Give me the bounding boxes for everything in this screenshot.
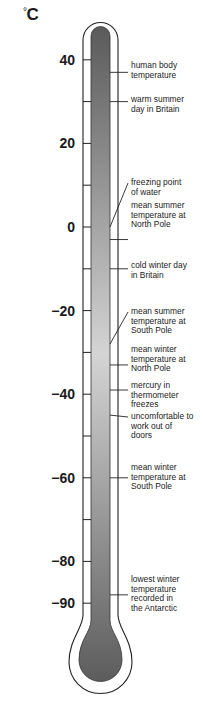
scale-label: −20 — [15, 304, 75, 318]
annotation-label: cold winter day in Britain — [131, 261, 187, 280]
scale-label: −40 — [15, 387, 75, 401]
scale-label: −60 — [15, 471, 75, 485]
annotation-label: mercury in thermometer freezes — [131, 381, 178, 410]
annotation-label: mean summer temperature at North Pole — [131, 201, 185, 230]
scale-label: 0 — [15, 220, 75, 234]
annotation-label: mean summer temperature at South Pole — [131, 307, 185, 336]
annotation-label: mean winter temperature at South Pole — [131, 463, 185, 492]
scale-label: 20 — [15, 136, 75, 150]
annotation-label: freezing point of water — [131, 178, 181, 197]
annotation-label: warm summer day in Britain — [131, 95, 184, 114]
scale-label: −80 — [15, 554, 75, 568]
scale-label: −90 — [15, 596, 75, 610]
annotation-label: human body temperature — [131, 61, 177, 80]
annotation-label: lowest winter temperature recorded in th… — [131, 575, 179, 613]
annotation-label: uncomfortable to work out of doors — [131, 412, 193, 441]
annotation-label: mean winter temperature at North Pole — [131, 345, 185, 374]
thermometer-diagram: °C 40200−20−40−60−80−90 human body tempe… — [0, 0, 203, 701]
scale-label: 40 — [15, 53, 75, 67]
